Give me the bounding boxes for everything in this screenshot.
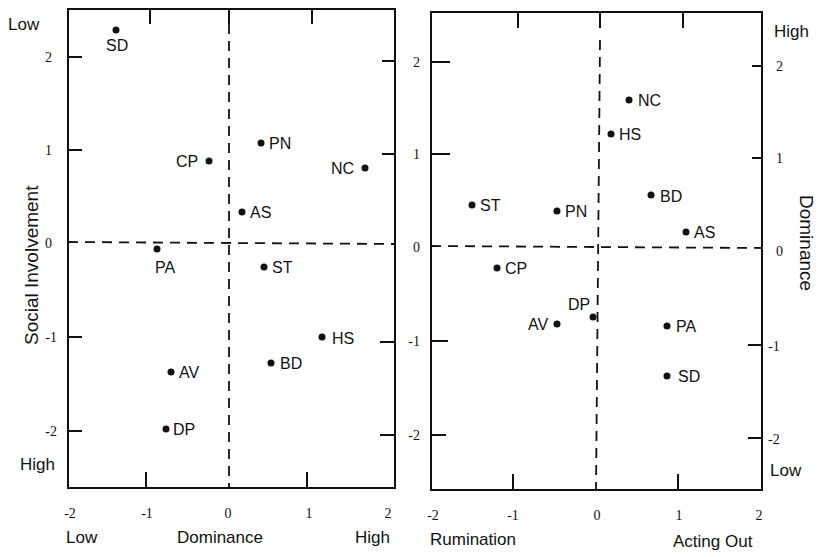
left-plot-frame bbox=[68, 9, 395, 488]
right-xtick: 1 bbox=[676, 508, 683, 523]
left-points: SD CP PN NC AS PA ST HS BD AV DP bbox=[106, 27, 369, 439]
right-right-ytick: -2 bbox=[768, 432, 780, 447]
right-right-ytick: 0 bbox=[776, 244, 783, 259]
point-label: AS bbox=[694, 224, 715, 241]
left-xtick: 0 bbox=[225, 506, 232, 521]
left-ytick: 1 bbox=[45, 143, 52, 158]
right-right-ytick: -1 bbox=[768, 339, 780, 354]
point-label: HS bbox=[619, 126, 641, 143]
point-label: PN bbox=[269, 135, 291, 152]
point-label: SD bbox=[678, 368, 700, 385]
point-label: SD bbox=[106, 37, 128, 54]
figure: 2 1 0 -1 -2 Low High Social Involvement … bbox=[0, 0, 824, 557]
right-left-ytick: 0 bbox=[413, 240, 420, 255]
point-label: AV bbox=[179, 364, 199, 381]
left-ytick: 2 bbox=[45, 50, 52, 65]
right-left-ytick: -2 bbox=[408, 428, 420, 443]
right-points: NC HS ST PN BD AS CP DP AV PA SD bbox=[469, 92, 716, 385]
right-vertical-reference-line bbox=[596, 40, 600, 490]
point-label: NC bbox=[331, 160, 354, 177]
point-label: BD bbox=[280, 355, 302, 372]
point-label: ST bbox=[272, 259, 293, 276]
point-label: PA bbox=[155, 259, 175, 276]
right-y-bottom-label: Low bbox=[770, 461, 802, 480]
left-ytick: -2 bbox=[45, 424, 57, 439]
right-xtick: -1 bbox=[507, 508, 519, 523]
point-label: DP bbox=[173, 421, 195, 438]
right-xtick: 0 bbox=[594, 508, 601, 523]
left-ytick: 0 bbox=[45, 236, 52, 251]
right-left-ytick: 2 bbox=[413, 55, 420, 70]
left-xtick: 1 bbox=[306, 506, 313, 521]
point-label: AS bbox=[250, 204, 271, 221]
point-label: AV bbox=[528, 316, 548, 333]
left-ytick: -1 bbox=[45, 330, 57, 345]
left-y-bottom-label: High bbox=[20, 455, 55, 474]
left-xtick: -2 bbox=[64, 506, 76, 521]
right-right-ytick: 1 bbox=[776, 151, 783, 166]
left-xtick: -1 bbox=[141, 506, 153, 521]
right-chart: 2 1 0 -1 -2 2 1 0 -1 -2 High Low Dominan… bbox=[408, 12, 817, 551]
left-xtick: 2 bbox=[385, 506, 392, 521]
right-left-ytick: -1 bbox=[408, 334, 420, 349]
point-label: PN bbox=[565, 203, 587, 220]
right-horizontal-reference-line bbox=[431, 246, 762, 248]
right-xtick: -2 bbox=[427, 508, 439, 523]
point-label: BD bbox=[660, 188, 682, 205]
right-x-right-label: Acting Out bbox=[673, 532, 753, 551]
left-chart: 2 1 0 -1 -2 Low High Social Involvement … bbox=[8, 9, 395, 547]
point-label: HS bbox=[332, 330, 354, 347]
point-label: PA bbox=[676, 318, 696, 335]
right-y-axis-title: Dominance bbox=[796, 195, 817, 291]
right-right-ytick: 2 bbox=[776, 59, 783, 74]
left-y-axis-title: Social Involvement bbox=[21, 185, 42, 345]
right-y-top-label: High bbox=[774, 22, 809, 41]
left-horizontal-reference-line bbox=[68, 242, 395, 244]
left-x-axis-title: Dominance bbox=[177, 528, 263, 547]
right-x-left-label: Rumination bbox=[430, 530, 516, 549]
point-label: CP bbox=[176, 153, 198, 170]
left-y-top-label: Low bbox=[8, 15, 40, 34]
left-x-low-label: Low bbox=[66, 528, 98, 547]
point-label: DP bbox=[568, 296, 590, 313]
right-xtick: 2 bbox=[756, 508, 763, 523]
right-left-ytick: 1 bbox=[413, 147, 420, 162]
point-label: CP bbox=[505, 260, 527, 277]
point-label: ST bbox=[480, 197, 501, 214]
left-x-high-label: High bbox=[355, 528, 390, 547]
point-label: NC bbox=[638, 92, 661, 109]
